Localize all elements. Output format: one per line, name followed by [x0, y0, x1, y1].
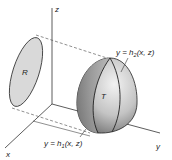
region-r-label: R [22, 68, 28, 77]
surface-h1-label: y = h1(x, z) [43, 139, 83, 149]
solid-t [77, 58, 137, 133]
z-axis-label: z [54, 5, 59, 14]
x-axis-label: x [5, 150, 11, 159]
surface-h1-prefix: y = h [43, 139, 62, 148]
y-axis-label: y [155, 142, 161, 151]
surface-h2-suffix: (x, z) [137, 48, 155, 57]
surface-h1-suffix: (x, z) [65, 139, 83, 148]
surface-h2-prefix: y = h [115, 48, 134, 57]
floor-projection-line [33, 121, 90, 136]
surface-h2-label: y = h2(x, z) [115, 48, 155, 58]
solid-region-diagram: z x y R T y = h2(x, z) y = h1(x, z) [0, 0, 172, 160]
projection-line-top [36, 35, 110, 59]
